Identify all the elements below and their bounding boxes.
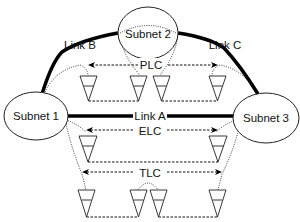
link-a-label: Link A xyxy=(134,110,166,122)
tlc-middle-dotted-arc xyxy=(138,183,158,190)
link-b-label: Link B xyxy=(64,39,96,51)
subnet-2-label: Subnet 2 xyxy=(125,28,171,40)
plc-node-2 xyxy=(130,76,147,101)
subnet-3-label: Subnet 3 xyxy=(243,112,289,124)
plc-node-1 xyxy=(80,76,97,101)
tlc-right-dotted xyxy=(218,124,240,190)
elc-left-dotted xyxy=(66,120,86,132)
tlc-left-dotted xyxy=(66,124,86,190)
plc-node-4 xyxy=(209,76,226,101)
tlc-label: TLC xyxy=(139,167,161,179)
plc-node-3 xyxy=(153,76,170,101)
tlc-node-4 xyxy=(209,190,226,217)
tlc-node-3 xyxy=(150,190,167,217)
link-c-label: Link C xyxy=(209,39,242,51)
tlc-node-2 xyxy=(130,190,147,217)
elc-node-right xyxy=(209,136,227,162)
tlc-node-1 xyxy=(78,190,95,217)
subnet-1-label: Subnet 1 xyxy=(13,110,59,122)
plc-label: PLC xyxy=(140,59,162,71)
elc-label: ELC xyxy=(139,125,161,137)
elc-node-left xyxy=(79,136,97,162)
network-diagram: Subnet 1 Subnet 2 Subnet 3 Link A Link B… xyxy=(0,0,300,222)
